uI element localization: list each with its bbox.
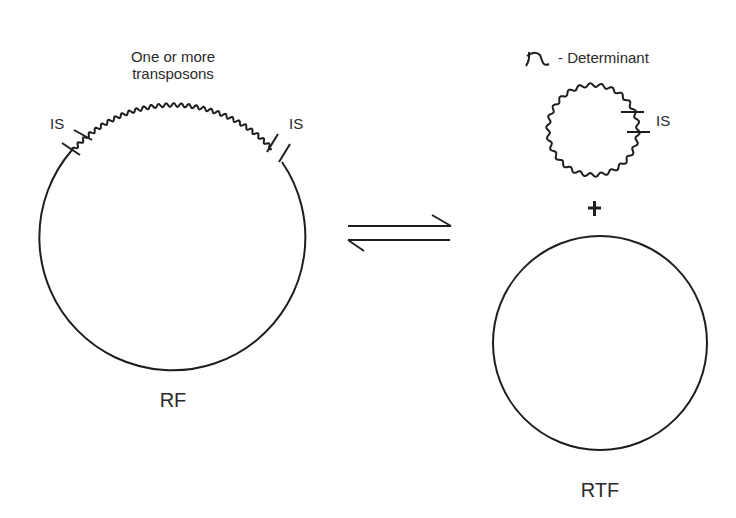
plasmid-dissociation-diagram [0, 0, 736, 518]
r-determinant-symbol-icon [526, 52, 549, 66]
rtf-label: RTF [581, 482, 620, 499]
equilibrium-arrows-icon [348, 215, 451, 251]
rf-label: RF [160, 392, 187, 409]
transposon-label: One or more transposons [131, 48, 215, 82]
rf-is-left-label: IS [50, 115, 64, 132]
r-determinant-wavy-circle [546, 83, 639, 176]
r-determinant-is-label: IS [656, 112, 670, 129]
rtf-plasmid-circle [493, 236, 707, 450]
rf-is-right-label: IS [289, 115, 303, 132]
rf-is-right-tick-2 [279, 144, 290, 162]
rf-plasmid-circle [39, 150, 305, 370]
transposon-label-line1: One or more [131, 48, 215, 65]
plus-sign-icon [588, 201, 601, 216]
rf-transposon-wavy-arc [72, 103, 272, 151]
transposon-label-line2: transposons [131, 65, 215, 82]
r-determinant-label: - Determinant [558, 49, 649, 66]
